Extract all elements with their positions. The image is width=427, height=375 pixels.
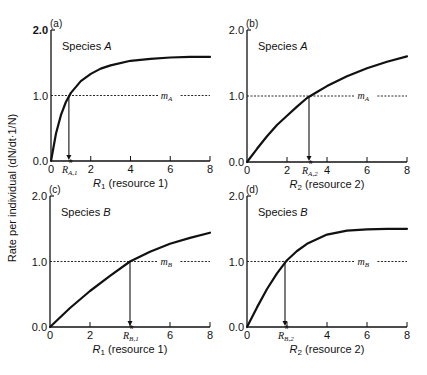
x-tick-label: 8 [207,329,213,341]
x-tick-label: 6 [167,329,173,341]
y-tick-label: 0.0 [229,321,244,333]
rstar-star: * [309,158,314,170]
x-axis-label: R2 (resource 2) [290,178,365,192]
y-tick-label: 2.0 [32,190,47,202]
x-tick-label: 4 [127,163,133,175]
mortality-label: mB [160,256,172,269]
y-tick-label: 0.0 [229,156,244,168]
panel-label: (b) [246,18,258,29]
species-label: Species A [258,40,308,52]
x-axis-label: R1 (resource 1) [93,343,168,357]
x-tick-label: 6 [364,329,370,341]
species-label: Species A [62,40,112,52]
y-axis-label: Rate per individual (dN/dt·1/N) [6,114,18,263]
x-tick-label: 2 [87,329,93,341]
panel-label: (a) [50,18,62,29]
panel-c: 02680.01.02.0(c)Species BmBRB,1*R1 (reso… [32,184,213,357]
x-axis-label: R2 (resource 2) [290,343,365,357]
y-tick-label: 1.0 [33,90,48,102]
x-axis-label: R1 (resource 1) [93,177,168,191]
panel-label: (c) [49,184,61,195]
x-tick-label: 8 [404,164,410,176]
figure: Rate per individual (dN/dt·1/N) 024680.0… [0,0,427,375]
growth-curve [247,229,407,327]
x-tick-label: 2 [88,163,94,175]
mortality-label: mA [357,90,369,103]
y-tick-label: 1.0 [32,256,47,268]
mortality-label: mA [161,90,173,103]
y-tick-label: 0.0 [32,321,47,333]
y-tick-label: 2.0 [229,190,244,202]
y-tick-label: 0.0 [33,155,48,167]
x-tick-label: 4 [324,329,330,341]
x-tick-label: 0 [244,329,250,341]
x-tick-label: 0 [48,163,54,175]
x-tick-label: 6 [364,164,370,176]
growth-curve [51,57,210,161]
rstar-star: * [130,323,135,335]
y-tick-label: 1.0 [229,90,244,102]
growth-curve [247,56,407,162]
panels: 024680.01.02.0(a)Species AmARA,1*R1 (res… [32,18,410,357]
species-label: Species B [61,206,111,218]
x-tick-label: 8 [207,163,213,175]
mortality-label: mB [357,256,369,269]
x-tick-label: 0 [244,164,250,176]
panel-a: 024680.01.02.0(a)Species AmARA,1*R1 (res… [33,18,213,191]
x-tick-label: 2 [284,164,290,176]
rstar-star: * [285,323,290,335]
panel-label: (d) [246,184,258,195]
x-tick-label: 8 [404,329,410,341]
rstar-star: * [68,157,73,169]
y-tick-label: 2.0 [33,24,48,36]
panel-b: 024680.01.02.0(b)Species AmARA,2*R2 (res… [229,18,410,192]
x-tick-label: 4 [324,164,330,176]
x-tick-label: 0 [47,329,53,341]
x-tick-label: 6 [167,163,173,175]
panel-d: 04680.01.02.0(d)Species BmBRB,2*R2 (reso… [229,184,410,357]
y-tick-label: 2.0 [229,24,244,36]
y-tick-label: 1.0 [229,256,244,268]
species-label: Species B [258,206,308,218]
